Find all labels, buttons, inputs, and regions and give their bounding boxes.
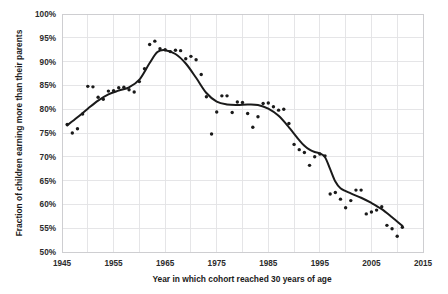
trend-line [67,50,402,226]
x-tick-label: 1995 [311,259,330,268]
data-point [303,151,306,154]
data-point [246,112,249,115]
data-point [282,108,285,111]
data-point [230,111,233,114]
data-point [390,227,393,230]
data-point [287,122,290,125]
y-tick-label: 100% [35,10,57,19]
data-point [370,210,373,213]
data-point [272,105,275,108]
y-tick-label: 50% [40,248,57,257]
data-point [71,131,74,134]
data-point [349,199,352,202]
y-tick-label: 90% [40,58,57,67]
data-point [179,49,182,52]
data-point [354,188,357,191]
data-point [107,89,110,92]
data-point [158,47,161,50]
y-tick-label: 60% [40,200,57,209]
y-axis-tick-labels: 50%55%60%65%70%75%80%85%90%95%100% [35,10,57,257]
data-point [261,102,264,105]
x-tick-label: 2005 [362,259,381,268]
data-point [323,154,326,157]
data-point [241,101,244,104]
data-point [112,89,115,92]
data-point [385,224,388,227]
x-tick-label: 1965 [156,259,175,268]
data-point [277,108,280,111]
y-tick-label: 75% [40,129,57,138]
x-axis-title: Year in which cohort reached 30 years of… [152,274,332,284]
data-point [236,100,239,103]
data-point [256,115,259,118]
data-point [380,205,383,208]
data-point [122,86,125,89]
data-point [102,98,105,101]
data-point [76,127,79,130]
data-point [163,48,166,51]
data-point [200,73,203,76]
data-point [359,188,362,191]
y-tick-label: 85% [40,81,57,90]
data-point [189,55,192,58]
data-point [308,164,311,167]
data-point [298,148,301,151]
y-tick-label: 80% [40,105,57,114]
data-points [65,39,404,238]
chart-svg: 50%55%60%65%70%75%80%85%90%95%100% 19451… [0,0,448,294]
data-point [215,110,218,113]
x-axis-tick-labels: 19451955196519751985199520052015 [53,259,433,268]
data-point [133,90,136,93]
data-point [96,96,99,99]
x-tick-label: 1975 [208,259,227,268]
data-point [225,94,228,97]
data-point [184,57,187,60]
data-point [365,212,368,215]
data-point [153,39,156,42]
gridlines [62,14,423,252]
chart-figure: 50%55%60%65%70%75%80%85%90%95%100% 19451… [0,0,448,294]
data-point [401,226,404,229]
data-point [205,95,208,98]
y-tick-label: 95% [40,34,57,43]
data-point [251,126,254,129]
x-tick-label: 1955 [104,259,123,268]
data-point [334,191,337,194]
data-point [143,67,146,70]
data-point [313,155,316,158]
data-point [396,235,399,238]
y-tick-label: 65% [40,177,57,186]
data-point [117,86,120,89]
data-point [375,208,378,211]
data-point [328,192,331,195]
y-axis-title: Fraction of children earning more than t… [14,29,24,236]
y-tick-label: 55% [40,224,57,233]
data-point [81,112,84,115]
data-point [344,206,347,209]
data-point [210,132,213,135]
data-point [292,143,295,146]
data-point [86,85,89,88]
y-tick-label: 70% [40,153,57,162]
data-point [267,101,270,104]
data-point [65,123,68,126]
data-point [220,94,223,97]
data-point [194,58,197,61]
x-tick-label: 1945 [53,259,72,268]
data-point [127,88,130,91]
data-point [148,43,151,46]
x-tick-label: 2015 [414,259,433,268]
x-tick-label: 1985 [259,259,278,268]
data-point [318,152,321,155]
data-point [174,48,177,51]
data-point [138,80,141,83]
data-point [339,197,342,200]
data-point [91,85,94,88]
data-point [169,50,172,53]
